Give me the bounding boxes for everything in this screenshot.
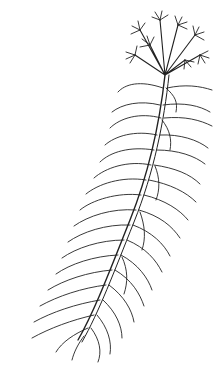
- illustration-canvas: [0, 0, 220, 377]
- flower-cluster: [126, 11, 209, 75]
- plant-illustration: [0, 0, 220, 377]
- stem: [78, 75, 165, 340]
- leaves: [32, 84, 212, 362]
